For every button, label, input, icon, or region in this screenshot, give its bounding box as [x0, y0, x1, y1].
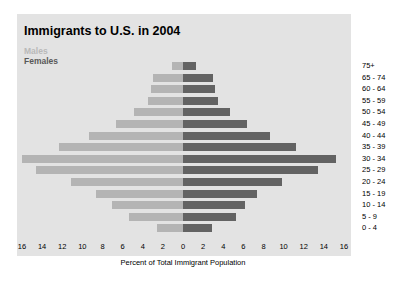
bar-male-5-9	[129, 213, 183, 221]
bar-female-15-19	[183, 190, 257, 198]
bar-male-75+	[172, 62, 183, 70]
bar-male-50-54	[134, 108, 183, 116]
legend-item-males: Males	[24, 46, 48, 56]
bar-male-40-44	[89, 132, 183, 140]
x-tick-label: 16	[14, 242, 30, 251]
age-group-label: 45 - 49	[362, 119, 385, 128]
age-group-label: 25 - 29	[362, 165, 385, 174]
x-tick-label: 6	[115, 242, 131, 251]
bar-male-10-14	[112, 201, 183, 209]
age-group-label: 40 - 44	[362, 131, 385, 140]
x-tick-label: 14	[316, 242, 332, 251]
x-tick-label: 2	[195, 242, 211, 251]
chart-title: Immigrants to U.S. in 2004	[24, 24, 180, 38]
age-group-label: 20 - 24	[362, 177, 385, 186]
bar-male-35-39	[59, 143, 183, 151]
x-tick-label: 12	[54, 242, 70, 251]
bar-male-0-4	[157, 224, 183, 232]
x-tick-label: 8	[256, 242, 272, 251]
age-group-label: 55 - 59	[362, 96, 385, 105]
bar-male-60-64	[151, 85, 183, 93]
legend-item-females: Females	[24, 56, 58, 66]
x-tick-label: 2	[155, 242, 171, 251]
bar-female-45-49	[183, 120, 247, 128]
bar-female-40-44	[183, 132, 270, 140]
bar-female-35-39	[183, 143, 296, 151]
x-tick-label: 12	[296, 242, 312, 251]
bar-female-20-24	[183, 178, 282, 186]
age-group-label: 65 - 74	[362, 73, 385, 82]
x-tick-label: 8	[95, 242, 111, 251]
bar-female-5-9	[183, 213, 236, 221]
age-group-label: 75+	[362, 61, 375, 70]
bar-male-25-29	[36, 166, 183, 174]
x-tick-label: 10	[276, 242, 292, 251]
bar-male-15-19	[96, 190, 183, 198]
bar-male-55-59	[148, 97, 183, 105]
bar-female-55-59	[183, 97, 218, 105]
x-tick-label: 4	[135, 242, 151, 251]
x-tick-label: 0	[175, 242, 191, 251]
chart-container: Immigrants to U.S. in 2004 Males Females…	[0, 0, 394, 284]
age-group-label: 30 - 34	[362, 154, 385, 163]
age-group-label: 50 - 54	[362, 107, 385, 116]
age-group-label: 10 - 14	[362, 200, 385, 209]
age-group-label: 5 - 9	[362, 212, 377, 221]
bar-female-60-64	[183, 85, 215, 93]
bar-female-30-34	[183, 155, 336, 163]
bar-female-10-14	[183, 201, 245, 209]
bar-male-65-74	[153, 74, 183, 82]
bar-female-0-4	[183, 224, 212, 232]
x-tick-label: 4	[215, 242, 231, 251]
age-group-label: 35 - 39	[362, 142, 385, 151]
x-axis-title: Percent of Total Immigrant Population	[93, 258, 273, 267]
bar-female-25-29	[183, 166, 318, 174]
x-tick-label: 6	[235, 242, 251, 251]
bar-female-75+	[183, 62, 196, 70]
age-group-label: 15 - 19	[362, 189, 385, 198]
bar-male-20-24	[71, 178, 183, 186]
bar-female-65-74	[183, 74, 213, 82]
x-tick-label: 14	[34, 242, 50, 251]
age-group-label: 60 - 64	[362, 84, 385, 93]
bar-male-30-34	[22, 155, 183, 163]
x-tick-label: 16	[336, 242, 352, 251]
bar-male-45-49	[116, 120, 183, 128]
x-tick-label: 10	[74, 242, 90, 251]
age-group-label: 0 - 4	[362, 223, 377, 232]
bar-female-50-54	[183, 108, 230, 116]
